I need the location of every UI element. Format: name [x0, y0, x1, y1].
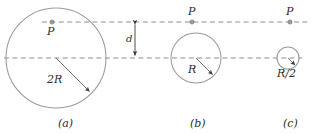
- point-p-panel-b: [190, 20, 194, 24]
- radius-label-panel-c: R/2: [277, 68, 296, 79]
- caption-panel-b: (b): [190, 118, 206, 129]
- physics-figure: P 2R (a) d P R (b) P R/2 (c): [0, 0, 314, 134]
- separation-label-d: d: [126, 34, 132, 44]
- point-label-p-b: P: [188, 6, 195, 17]
- point-p-panel-a: [50, 20, 54, 24]
- caption-panel-a: (a): [58, 118, 73, 129]
- caption-panel-c: (c): [283, 118, 298, 129]
- radius-arrow-panel-c: [288, 58, 295, 65]
- radius-label-panel-b: R: [188, 64, 196, 75]
- point-p-panel-c: [288, 20, 292, 24]
- radius-label-panel-a: 2R: [47, 74, 62, 85]
- point-label-p-c: P: [286, 6, 293, 17]
- point-label-p-a: P: [47, 26, 54, 37]
- figure-canvas: [0, 0, 314, 134]
- radius-arrow-panel-b: [196, 58, 213, 75]
